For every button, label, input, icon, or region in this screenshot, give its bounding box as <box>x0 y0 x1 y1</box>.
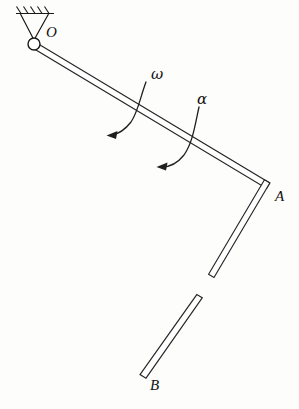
pin-joint-circle <box>28 38 40 50</box>
upper-bar-body <box>30 41 270 189</box>
hatch-tick-3 <box>31 7 36 14</box>
hatch-tick-5 <box>45 7 50 14</box>
hatch-tick-2 <box>24 7 29 14</box>
lower-bar-upper-segment <box>209 180 270 278</box>
lower-bar-AB <box>140 180 270 378</box>
hatch-tick-4 <box>38 7 43 14</box>
label-elbow-A: A <box>274 188 285 204</box>
support-triangle <box>21 14 49 40</box>
upper-bar-OA <box>30 41 270 189</box>
label-omega: ω <box>151 65 163 83</box>
figure-canvas: O A B ω α <box>0 0 299 409</box>
label-alpha: α <box>197 90 207 108</box>
alpha-arrowhead <box>157 163 168 171</box>
lower-bar-lower-segment <box>140 295 202 379</box>
hatch-tick-1 <box>17 7 22 14</box>
mechanics-figure: O A B ω α <box>0 0 299 409</box>
label-free-end-B: B <box>150 377 159 393</box>
label-pivot-O: O <box>46 24 57 40</box>
omega-arrowhead <box>107 131 118 139</box>
